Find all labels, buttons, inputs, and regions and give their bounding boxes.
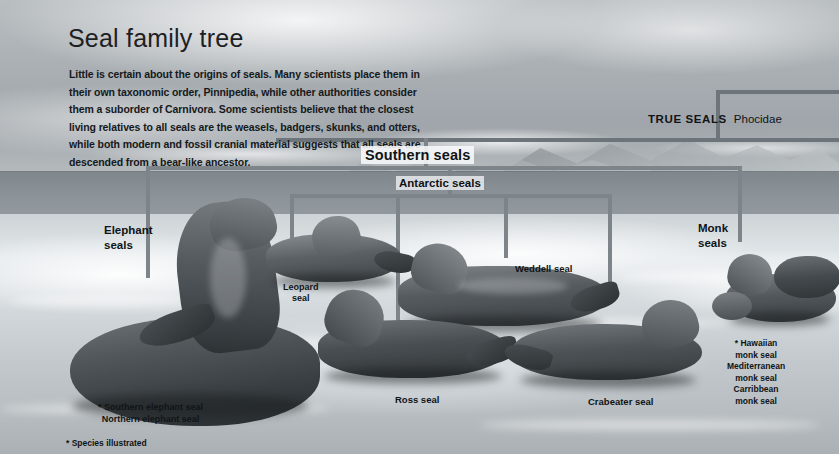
monk-seal-illustration-second	[774, 246, 839, 302]
label-ross-seal: Ross seal	[395, 394, 439, 405]
monk-seals-line1: Monk	[698, 221, 728, 236]
leopard-seal-illustration	[266, 216, 402, 284]
monk-species-item: monk seal	[727, 396, 785, 408]
label-elephant-species-list: * Southern elephant seal Northern elepha…	[98, 401, 203, 425]
bracket-antarctic-bar	[290, 194, 612, 198]
bracket-monk-branch	[738, 166, 742, 242]
label-southern-seals: Southern seals	[361, 146, 474, 164]
label-true-seals: TRUE SEALSPhocidae	[648, 113, 782, 125]
page-title: Seal family tree	[68, 24, 244, 53]
true-seals-text: TRUE SEALS	[648, 113, 727, 125]
footnote-species-illustrated: * Species illustrated	[66, 438, 147, 448]
label-weddell-seal: Weddell seal	[515, 263, 572, 274]
label-leopard-seal: Leopard seal	[283, 282, 319, 304]
monk-species-item: Carribbean	[727, 384, 785, 396]
monk-species-item: Mediterranean	[727, 361, 785, 373]
leopard-seal-line1: Leopard	[283, 282, 319, 293]
label-monk-species-list: * Hawaiian monk seal Mediterranean monk …	[727, 338, 785, 407]
monk-seals-line2: seals	[698, 236, 728, 251]
crabeater-seal-illustration	[512, 300, 702, 388]
bracket-true-seals-top	[716, 90, 839, 94]
elephant-seals-line2: seals	[104, 238, 153, 253]
monk-species-item: monk seal	[727, 350, 785, 362]
label-crabeater-seal: Crabeater seal	[588, 396, 653, 407]
elephant-seals-line1: Elephant	[104, 223, 153, 238]
label-monk-seals: Monk seals	[698, 221, 728, 251]
label-elephant-seals: Elephant seals	[104, 223, 153, 253]
label-antarctic-seals: Antarctic seals	[396, 176, 484, 190]
true-seals-family: Phocidae	[734, 113, 782, 125]
monk-species-item: monk seal	[727, 373, 785, 385]
elephant-species-item: * Southern elephant seal	[98, 401, 203, 413]
monk-species-item: * Hawaiian	[727, 338, 785, 350]
ice-streak	[480, 420, 820, 430]
elephant-species-item: Northern elephant seal	[98, 413, 203, 425]
seal-family-tree-infographic: Seal family tree Little is certain about…	[0, 0, 839, 454]
monk-seal-pup-illustration	[712, 288, 752, 322]
ross-seal-illustration	[318, 290, 508, 386]
leopard-seal-line2: seal	[283, 293, 319, 304]
